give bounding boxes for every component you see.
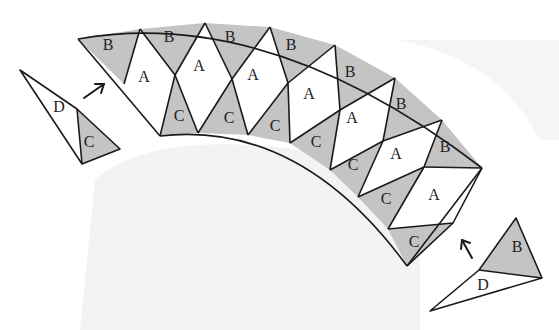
label-b: B — [286, 36, 297, 53]
label-a: A — [390, 145, 402, 162]
label-c: C — [270, 117, 281, 134]
right-corner-unit: B D — [430, 218, 542, 311]
label-c: C — [381, 190, 392, 207]
label-b: B — [103, 36, 114, 53]
label-d: D — [53, 98, 65, 115]
label-a: A — [138, 68, 150, 85]
label-c: C — [348, 156, 359, 173]
label-c: C — [84, 133, 95, 150]
label-c: C — [224, 109, 235, 126]
label-a: A — [193, 57, 205, 74]
label-a: A — [428, 186, 440, 203]
label-a: A — [247, 66, 259, 83]
label-a: A — [303, 85, 315, 102]
label-d: D — [477, 276, 489, 293]
quilt-arc-diagram: B A B C A B C A B C A B C A B C A B C A … — [0, 0, 559, 330]
label-b: B — [440, 138, 451, 155]
label-b: B — [345, 63, 356, 80]
label-c: C — [174, 107, 185, 124]
left-corner-unit: D C — [20, 70, 120, 164]
label-b: B — [512, 238, 523, 255]
arrow-up-right-icon — [84, 84, 104, 98]
arrow-up-left-icon — [461, 240, 472, 258]
label-a: A — [346, 109, 358, 126]
label-c: C — [311, 133, 322, 150]
label-b: B — [396, 95, 407, 112]
label-c: C — [409, 233, 420, 250]
label-b: B — [164, 28, 175, 45]
label-b: B — [225, 28, 236, 45]
